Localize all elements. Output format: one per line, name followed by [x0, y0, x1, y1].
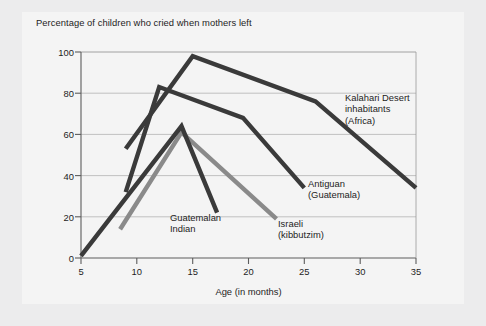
y-tick-label-60: 60 — [52, 129, 74, 140]
series-label-antiguan: Antiguan (Guatemala) — [308, 178, 360, 201]
series-label-kalahari: Kalahari Desert inhabitants (Africa) — [345, 92, 410, 126]
axis-lines — [81, 52, 416, 258]
plot-background — [81, 52, 416, 258]
x-tick-label-20: 20 — [243, 266, 253, 277]
x-tick-label-15: 15 — [187, 266, 197, 277]
x-tick-label-30: 30 — [355, 266, 365, 277]
series-label-israeli-line1: Israeli — [278, 218, 324, 229]
series-label-antiguan-line1: Antiguan — [308, 178, 360, 189]
series-label-antiguan-line2: (Guatemala) — [308, 189, 360, 200]
y-tick-label-80: 80 — [52, 88, 74, 99]
series-label-guatemalan: Guatemalan Indian — [170, 212, 221, 235]
x-axis-ticks — [81, 258, 416, 264]
y-tick-label-100: 100 — [52, 47, 74, 58]
x-tick-label-35: 35 — [411, 266, 421, 277]
series-lines — [81, 56, 416, 256]
series-label-guatemalan-line2: Indian — [170, 223, 221, 234]
y-axis-ticks — [75, 52, 81, 258]
x-tick-label-5: 5 — [78, 266, 83, 277]
series-label-guatemalan-line1: Guatemalan — [170, 212, 221, 223]
figure-container: Percentage of children who cried when mo… — [0, 0, 486, 326]
x-axis-title: Age (in months) — [215, 286, 281, 297]
series-label-kalahari-line2: inhabitants — [345, 103, 410, 114]
y-tick-label-20: 20 — [52, 211, 74, 222]
series-label-israeli: Israeli (kibbutzim) — [278, 218, 324, 241]
y-tick-label-40: 40 — [52, 170, 74, 181]
y-tick-label-0: 0 — [52, 253, 74, 264]
series-label-kalahari-line1: Kalahari Desert — [345, 92, 410, 103]
series-label-kalahari-line3: (Africa) — [345, 115, 410, 126]
series-label-israeli-line2: (kibbutzim) — [278, 229, 324, 240]
x-tick-label-10: 10 — [132, 266, 142, 277]
x-tick-label-25: 25 — [299, 266, 309, 277]
